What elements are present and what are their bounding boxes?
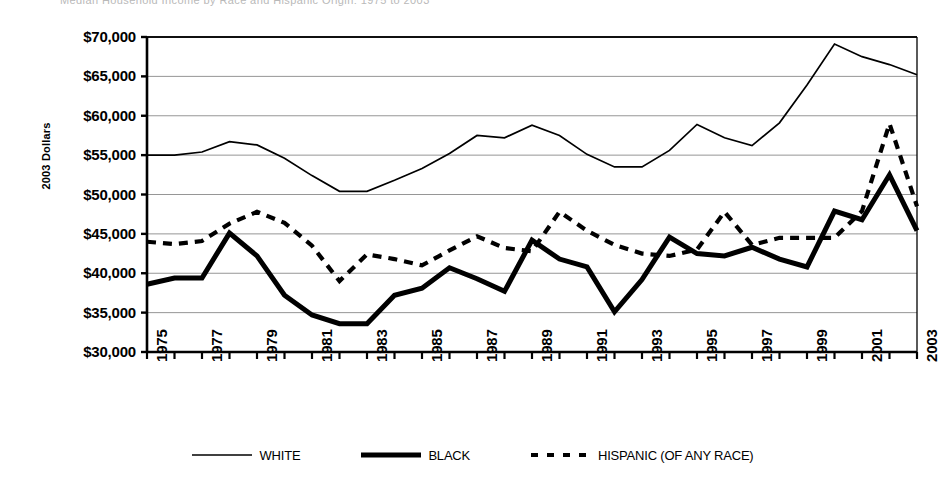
legend-label: HISPANIC (OF ANY RACE) — [598, 448, 753, 463]
income-line-chart-figure: Median Household Income by Race and Hisp… — [0, 0, 945, 483]
legend-item-white[interactable]: WHITE — [191, 448, 300, 463]
legend-swatch-thick-solid — [360, 449, 422, 461]
data-series — [147, 44, 917, 324]
gridlines — [147, 37, 917, 352]
legend-swatch-thin-solid — [191, 449, 253, 461]
plot-area — [0, 0, 945, 483]
legend-item-black[interactable]: BLACK — [360, 448, 470, 463]
series-line-white — [147, 44, 917, 191]
legend-label: BLACK — [428, 448, 470, 463]
legend-label: WHITE — [259, 448, 300, 463]
chart-legend: WHITEBLACKHISPANIC (OF ANY RACE) — [0, 440, 945, 470]
legend-item-hispanic-of-any-race[interactable]: HISPANIC (OF ANY RACE) — [530, 448, 753, 463]
legend-swatch-dashed — [530, 449, 592, 461]
series-line-black — [147, 175, 917, 324]
